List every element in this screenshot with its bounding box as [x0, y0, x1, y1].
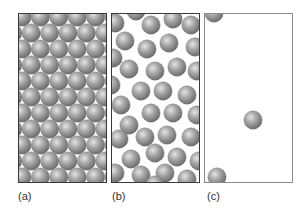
- particle: [50, 72, 68, 90]
- solid-particles: [18, 13, 107, 183]
- label-a: (a): [18, 190, 31, 202]
- particle: [18, 56, 22, 74]
- particle: [68, 40, 86, 58]
- particle: [160, 34, 178, 52]
- particle: [40, 24, 58, 42]
- particle: [59, 56, 77, 74]
- particle: [18, 40, 31, 58]
- particle: [77, 56, 95, 74]
- particle: [68, 104, 86, 122]
- particle: [188, 106, 200, 124]
- panel-liquid: [111, 13, 200, 183]
- particle: [205, 13, 223, 22]
- particle: [96, 152, 107, 170]
- panel-gas: [204, 13, 293, 183]
- particle: [116, 32, 134, 50]
- particle: [111, 49, 122, 67]
- particle: [146, 62, 164, 80]
- particle: [111, 164, 124, 182]
- gas-particles: [204, 13, 293, 183]
- particle: [59, 24, 77, 42]
- particle: [77, 24, 95, 42]
- particle: [120, 60, 138, 78]
- particle: [86, 136, 104, 154]
- particle: [111, 130, 128, 148]
- particle: [22, 88, 40, 106]
- particle: [112, 96, 130, 114]
- particle: [68, 136, 86, 154]
- particle: [77, 120, 95, 138]
- particle: [22, 24, 40, 42]
- particle: [86, 72, 104, 90]
- particle: [105, 40, 107, 58]
- particle: [31, 136, 49, 154]
- particle: [105, 72, 107, 90]
- particle: [50, 104, 68, 122]
- particle: [138, 40, 156, 58]
- liquid-particles: [111, 13, 200, 183]
- particle: [18, 104, 31, 122]
- particle: [77, 88, 95, 106]
- particle: [22, 120, 40, 138]
- particle: [178, 86, 196, 104]
- particle: [154, 82, 172, 100]
- particle: [122, 150, 140, 168]
- particle: [244, 111, 262, 129]
- particle: [105, 104, 107, 122]
- particle: [190, 152, 200, 170]
- particle: [146, 144, 164, 162]
- particle: [86, 168, 104, 183]
- particle: [31, 72, 49, 90]
- particle: [59, 88, 77, 106]
- particle: [77, 152, 95, 170]
- particle: [22, 56, 40, 74]
- particle: [59, 152, 77, 170]
- particle: [182, 16, 200, 34]
- particle: [178, 170, 196, 183]
- particle: [164, 104, 182, 122]
- particle: [127, 13, 145, 20]
- particle: [136, 128, 154, 146]
- particle: [18, 120, 22, 138]
- particle: [208, 168, 226, 183]
- particle: [182, 128, 200, 146]
- particle: [50, 40, 68, 58]
- particle: [59, 120, 77, 138]
- particle: [31, 168, 49, 183]
- particle: [40, 120, 58, 138]
- particle: [105, 136, 107, 154]
- particle: [68, 72, 86, 90]
- panel-solid: [18, 13, 107, 183]
- particle: [142, 104, 160, 122]
- particle: [68, 168, 86, 183]
- particle: [132, 82, 150, 100]
- particle: [188, 62, 200, 80]
- particle: [50, 168, 68, 183]
- particle: [186, 38, 200, 56]
- particle: [96, 120, 107, 138]
- particle: [96, 56, 107, 74]
- label-b: (b): [112, 190, 125, 202]
- particle: [168, 148, 186, 166]
- particle: [86, 40, 104, 58]
- particle: [96, 24, 107, 42]
- particle: [40, 152, 58, 170]
- particle: [168, 58, 186, 76]
- particle: [31, 104, 49, 122]
- particle: [86, 104, 104, 122]
- particle: [142, 16, 160, 34]
- particle: [22, 152, 40, 170]
- particle: [111, 76, 120, 94]
- particle: [40, 56, 58, 74]
- particle: [50, 136, 68, 154]
- particle: [18, 72, 31, 90]
- particle: [18, 136, 31, 154]
- label-c: (c): [207, 190, 220, 202]
- particle: [18, 152, 22, 170]
- particle: [40, 88, 58, 106]
- particle: [164, 13, 182, 28]
- particle: [158, 126, 176, 144]
- particle: [18, 24, 22, 42]
- particle: [96, 88, 107, 106]
- particle: [18, 88, 22, 106]
